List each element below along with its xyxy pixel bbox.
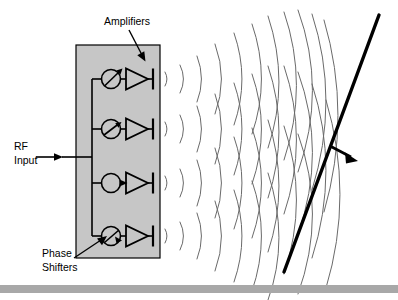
diagram-canvas: Amplifiers Phase Shifters RF Input: [0, 0, 398, 300]
wavefront-arc: [268, 120, 279, 252]
wavefront-arc: [180, 115, 184, 143]
wavefront-arc: [165, 229, 167, 243]
wavefront-arc: [197, 56, 202, 102]
wavefront-arc: [215, 94, 222, 164]
wavefront-arc: [180, 65, 184, 93]
phase-shifters-label-line1: Phase: [42, 247, 72, 259]
wavefront-arc: [215, 148, 222, 218]
wavefront-arc: [165, 122, 167, 136]
phased-array-diagram: Amplifiers Phase Shifters RF Input: [0, 0, 398, 300]
beam-direction-arrow: [330, 146, 358, 164]
amplifiers-label: Amplifiers: [104, 15, 150, 27]
wavefront-arc: [312, 84, 326, 258]
wavefront-arc: [197, 160, 202, 206]
wavefront-arc: [180, 222, 184, 250]
wavefront-arc: [197, 213, 202, 259]
rf-input-label-line2: Input: [14, 154, 37, 166]
wavefront-arc: [268, 16, 279, 148]
wavefront-arc: [180, 169, 184, 197]
wavefront-arc: [215, 201, 222, 271]
footer-bar: [0, 285, 398, 293]
wavefront-arc: [197, 106, 202, 152]
wavefront-arc: [165, 176, 167, 190]
array-panel: [76, 45, 160, 258]
wavefront-arc: [298, 10, 313, 172]
combined-wavefront-line: [284, 15, 379, 272]
wavefront-arc: [165, 72, 167, 86]
phase-shifters-label-line2: Shifters: [42, 261, 78, 273]
wavefront-arc: [252, 128, 262, 238]
rf-input-label-line1: RF: [14, 140, 28, 152]
wavefront-arc: [252, 181, 262, 291]
rf-input-arrow: [36, 153, 63, 161]
wavefront-group: [165, 10, 340, 300]
